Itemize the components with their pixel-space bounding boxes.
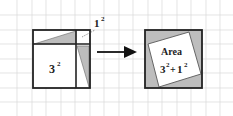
big-square-label: 3 [49,62,55,76]
pythagorean-diagram: 3 2 1 2 Area 3 2 + 1 2 [0,0,233,116]
area-title: Area [161,46,182,57]
small-square-exponent: 2 [101,15,105,23]
formula-b: 1 [177,63,183,75]
small-square-label: 1 [94,17,100,29]
formula-b-exponent: 2 [184,61,188,69]
arrow-right-icon [97,46,137,58]
big-square-exponent: 2 [57,60,61,68]
left-square: 3 2 1 2 [33,15,105,88]
formula-plus: + [170,64,176,75]
right-square: Area 3 2 + 1 2 [145,30,202,88]
